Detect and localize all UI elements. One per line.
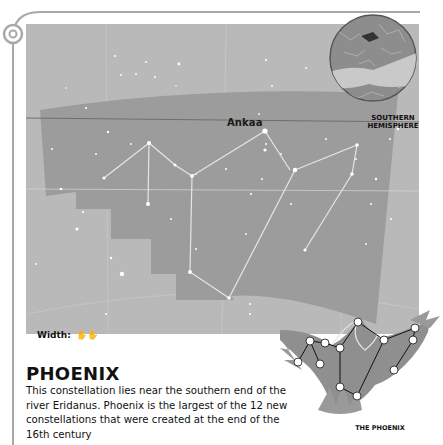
ring-bullet-icon bbox=[4, 25, 22, 43]
width-label: Width: bbox=[37, 330, 71, 340]
illustration-caption: THE PHOENIX bbox=[335, 424, 425, 432]
hands-span-icon: ✋✋ bbox=[76, 330, 98, 340]
inset-label: SOUTHERN HEMISPHERE bbox=[348, 114, 438, 130]
phoenix-illustration bbox=[280, 310, 443, 422]
constellation-boundary bbox=[40, 91, 398, 324]
description: This constellation lies near the souther… bbox=[26, 384, 296, 442]
inset-label-line2: HEMISPHERE bbox=[348, 122, 438, 130]
star-label-ankaa: Ankaa bbox=[227, 117, 263, 128]
southern-hemisphere-globe bbox=[329, 12, 417, 104]
inset-label-line1: SOUTHERN bbox=[348, 114, 438, 122]
page-title: PHOENIX bbox=[26, 363, 120, 384]
width-indicator: Width: ✋✋ bbox=[37, 330, 98, 340]
